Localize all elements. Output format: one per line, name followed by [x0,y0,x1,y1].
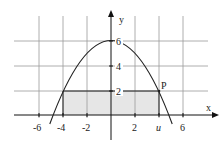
x-tick-m6: -6 [33,122,41,133]
x-tick-m2: -2 [82,122,90,133]
y-axis-label: y [119,14,124,25]
y-tick-2: 2 [116,86,121,97]
axes [14,14,216,140]
y-tick-6: 6 [116,36,121,47]
x-axis-arrow-icon [212,112,219,118]
x-tick-m4: -4 [57,122,65,133]
y-tick-4: 4 [116,61,121,72]
point-p-label: P [161,80,167,91]
x-tick-u: u [156,122,161,133]
x-tick-2: 2 [132,122,137,133]
point-p [158,90,161,93]
x-axis-label: x [206,102,211,113]
parabola-chart: x y P -6 -4 -2 2 u 6 2 4 6 [0,0,221,142]
x-tick-6: 6 [180,122,185,133]
y-axis-arrow-icon [108,10,114,17]
